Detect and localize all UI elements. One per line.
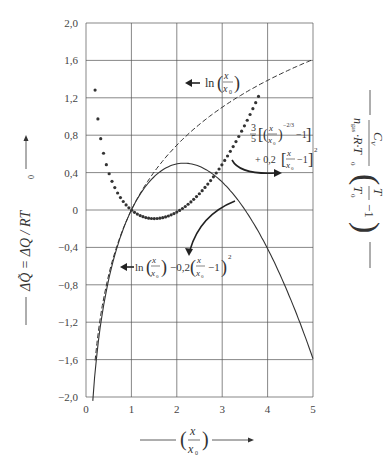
dotted-curve-point — [229, 150, 232, 153]
ann-solid-mid: −0,2 — [170, 261, 190, 273]
bottom-axis-label: ( x x 0 ) — [140, 424, 254, 456]
y-tick-label: 0,8 — [64, 129, 78, 141]
dotted-curve-point — [113, 186, 116, 189]
dotted-curve-point — [99, 137, 102, 140]
y-tick-label: 0 — [73, 204, 79, 216]
dotted-curve-point — [220, 163, 223, 166]
left-axis-label: ΔQ̃ = ΔQ / RT 0 — [18, 135, 36, 325]
dotted-curve-point — [155, 217, 158, 220]
left-axis-sub: 0 — [27, 175, 36, 179]
ann-solid-frac-den-sub: 0 — [156, 274, 159, 279]
dotted-curve-point — [150, 217, 153, 220]
dotted-curve-point — [237, 135, 240, 138]
curves — [93, 60, 313, 401]
ann-solid-ln: ln — [135, 261, 144, 273]
dotted-curve-point — [175, 210, 178, 213]
y-tick-label: −2,0 — [58, 391, 78, 403]
dotted-curve-point — [203, 186, 206, 189]
ann-ln-text: ln — [205, 76, 214, 90]
ann-dot-frac-num: x — [268, 123, 273, 133]
dotted-curve-point — [139, 214, 142, 217]
paren-right: ) — [161, 257, 167, 278]
y-tick-label: 2,0 — [64, 17, 78, 29]
right-den-rest: ·R·T — [351, 134, 365, 155]
dotted-curve-point — [226, 154, 229, 157]
dotted-curve-point — [161, 216, 164, 219]
x-tick-label: 0 — [83, 403, 89, 415]
ann-frac-num: x — [223, 70, 229, 81]
paren-right: ) — [234, 73, 240, 94]
ann-solid2-frac-num: x — [196, 255, 201, 265]
ann-solid2-frac-den-sub: 0 — [201, 274, 204, 279]
ann-solid-frac-num: x — [151, 255, 156, 265]
dotted-curve-point — [170, 213, 173, 216]
ann-dot2-m1: −1 — [297, 154, 308, 165]
right-den-sub: gas — [351, 124, 357, 133]
dotted-curve-point — [201, 189, 204, 192]
bottom-axis-den: x — [187, 442, 194, 456]
right-num: C — [371, 132, 386, 141]
right-axis-label: C V n gas ·R·T 0 ( T T 0 −1 ) — [348, 90, 386, 268]
paren-right: ) — [348, 222, 386, 233]
dotted-curve-point — [251, 107, 254, 110]
dotted-curve-point — [96, 117, 99, 120]
dotted-curve-point — [246, 119, 249, 122]
dotted-curve-point — [102, 152, 105, 155]
ann-dot2-frac-num: x — [286, 148, 291, 158]
dotted-curve-point — [248, 113, 251, 116]
ann-frac-den: x — [222, 83, 228, 94]
y-tick-label: −1,6 — [58, 354, 78, 366]
grid — [86, 23, 313, 397]
dotted-curve-point — [209, 179, 212, 182]
ann-solid-m1: −1 — [208, 261, 220, 273]
dotted-curve-point — [122, 200, 125, 203]
right-frac-num: T — [371, 188, 386, 196]
y-tick-label: −1,2 — [58, 316, 78, 328]
chart: 0123452,01,61,20,80,40−0,4−0,8−1,2−1,6−2… — [0, 0, 387, 470]
ann-solid2-frac-den: x — [195, 268, 200, 278]
dotted-curve-point — [147, 217, 150, 220]
dotted-curve-point — [257, 95, 260, 98]
bracket-right: ] — [308, 151, 313, 168]
dotted-curve-point — [127, 206, 130, 209]
ann-dot-plus: + 0,2 — [255, 154, 276, 165]
paren-right: ) — [221, 257, 227, 278]
dotted-curve-point — [198, 192, 201, 195]
dotted-curve-point — [195, 195, 198, 198]
dotted-curve-point — [93, 88, 96, 91]
dotted-curve-point — [119, 196, 122, 199]
dotted-curve-point — [240, 130, 243, 133]
right-minus-one: −1 — [362, 204, 377, 218]
dotted-curve-point — [178, 209, 181, 212]
paren-right: ) — [202, 428, 209, 451]
bracket-right: ] — [306, 126, 311, 143]
bottom-axis-num: x — [189, 424, 196, 438]
y-tick-label: 1,6 — [64, 54, 78, 66]
dotted-curve-point — [153, 217, 156, 220]
ann-dot2-frac-den: x — [285, 160, 290, 170]
ann-solid-sq: 2 — [228, 253, 232, 261]
right-frac-den-sub: 0 — [349, 194, 357, 198]
ann-dot-frac-den: x — [267, 135, 272, 145]
dotted-curve-point — [124, 203, 127, 206]
x-tick-label: 2 — [174, 403, 180, 415]
y-tick-label: −0,4 — [58, 241, 78, 253]
dotted-curve-point — [136, 213, 139, 216]
dotted-curve-point — [206, 182, 209, 185]
ann-dot-exp: −2/3 — [283, 122, 294, 128]
dotted-curve-point — [215, 171, 218, 174]
dotted-curve-point — [141, 215, 144, 218]
dotted-curve-point — [243, 124, 246, 127]
bottom-axis-den-sub: 0 — [195, 450, 198, 456]
ann-dot-coef: 3 — [251, 122, 256, 133]
dotted-curve-point — [116, 191, 119, 194]
x-tick-label: 3 — [219, 403, 225, 415]
y-tick-label: −0,8 — [58, 279, 78, 291]
left-axis-text: ΔQ̃ = ΔQ / RT — [18, 209, 33, 292]
dotted-curve-point — [223, 159, 226, 162]
dotted-curve-point — [158, 217, 161, 220]
y-tick-label: 1,2 — [64, 92, 78, 104]
paren-right: ) — [278, 127, 283, 143]
dotted-curve-point — [217, 167, 220, 170]
dotted-curve-point — [133, 211, 136, 214]
